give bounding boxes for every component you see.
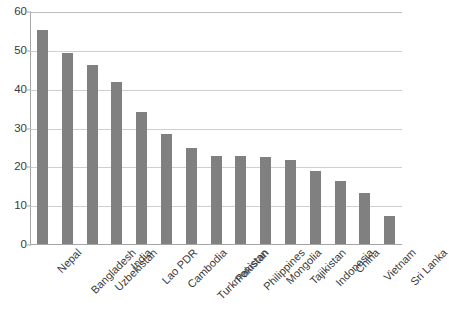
y-tick-mark (26, 167, 31, 168)
bar (37, 30, 48, 244)
y-tick-mark (26, 128, 31, 129)
bar (186, 148, 197, 244)
plot-area (30, 12, 402, 245)
bar (87, 65, 98, 244)
bar (235, 156, 246, 244)
bar (136, 112, 147, 244)
bar (285, 160, 296, 244)
bar (211, 156, 222, 244)
bar (384, 216, 395, 244)
x-axis-labels: NepalBangladeshUzbekistanIndiaLao PDRCam… (30, 247, 402, 327)
bar (260, 157, 271, 244)
x-tick-label: Nepal (56, 247, 84, 275)
y-tick-mark (26, 89, 31, 90)
y-tick-mark (26, 206, 31, 207)
bar (335, 181, 346, 244)
y-axis-labels: 6050403020100 (0, 0, 27, 250)
bar (111, 82, 122, 244)
y-tick-mark (26, 12, 31, 13)
y-tick-mark (26, 245, 31, 246)
y-tick-mark (26, 50, 31, 51)
bars (30, 12, 402, 245)
bar (161, 134, 172, 244)
bar (310, 171, 321, 244)
bar (359, 193, 370, 244)
x-tick-label: China (353, 247, 381, 275)
bar (62, 53, 73, 244)
